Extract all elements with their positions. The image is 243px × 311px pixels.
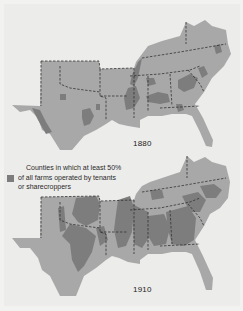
legend-swatch-tenant-counties bbox=[7, 175, 14, 182]
legend-line-2: of all farms operated by tenants bbox=[18, 173, 121, 183]
map-year-label-1910: 1910 bbox=[133, 285, 152, 294]
legend-text: Counties in which at least 50% of all fa… bbox=[18, 163, 121, 192]
legend-line-3: or sharecroppers bbox=[18, 182, 121, 192]
map-1880 bbox=[0, 0, 243, 155]
legend-line-1: Counties in which at least 50% bbox=[26, 163, 121, 173]
map-year-label-1880: 1880 bbox=[133, 139, 152, 148]
